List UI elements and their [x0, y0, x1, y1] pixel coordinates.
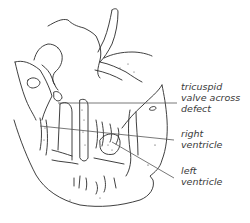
label-left-ventricle: left ventricle — [181, 165, 222, 187]
leader-left-ventricle — [112, 142, 174, 178]
label-line: left — [181, 165, 222, 176]
label-line: right — [181, 128, 222, 139]
label-line: defect — [181, 103, 240, 114]
label-line: valve across — [181, 92, 240, 103]
label-right-ventricle: right ventricle — [181, 128, 222, 150]
label-tricuspid-valve: tricuspid valve across defect — [181, 81, 240, 114]
leader-right-ventricle — [40, 126, 174, 140]
label-line: tricuspid — [181, 81, 240, 92]
label-line: ventricle — [181, 176, 222, 187]
label-line: ventricle — [181, 139, 222, 150]
